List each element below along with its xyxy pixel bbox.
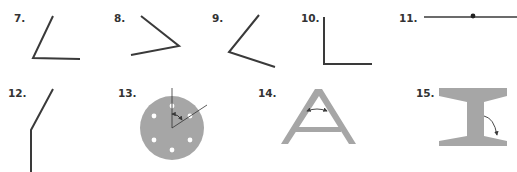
figure-7-angle [33,16,80,59]
figure-13-plate [140,88,207,160]
figure-10-angle [324,17,372,64]
figure-11-vertex-dot [471,14,476,19]
figure-9-angle [229,15,275,67]
figure-14-a-frame [281,89,356,144]
figure-8-angle [131,16,179,55]
figures-canvas [0,0,517,172]
figure-12-angle [31,89,53,172]
figure-15-i-beam [439,88,507,146]
